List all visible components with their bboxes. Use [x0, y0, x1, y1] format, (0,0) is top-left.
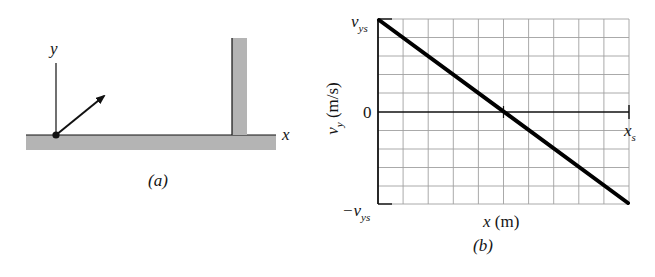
origin-dot — [52, 131, 59, 138]
y-tick-zero-label: 0 — [363, 104, 372, 121]
floor — [26, 135, 276, 150]
y-tick-bottom-sub: ys — [361, 211, 370, 223]
x-axis-title-main: x — [483, 212, 491, 231]
velocity-arrow-icon — [56, 96, 104, 135]
y-axis-title-main: v — [323, 127, 342, 135]
x-tick-end-label: xs — [624, 122, 636, 139]
x-axis-title: x (m) — [483, 213, 519, 230]
y-axis-title-unit: (m/s) — [323, 82, 342, 122]
panel-a-caption: (a) — [148, 172, 168, 189]
panel-a-diagram — [26, 38, 276, 150]
y-tick-bottom-label: −vys — [342, 202, 370, 219]
y-tick-bottom-main: −v — [342, 201, 361, 220]
y-tick-top-sub: ys — [359, 22, 368, 34]
panel-b-chart — [378, 19, 629, 204]
wall — [232, 38, 247, 135]
y-tick-top-main: v — [351, 12, 359, 31]
y-axis-title: vy (m/s) — [324, 69, 341, 149]
x-tick-end-main: x — [624, 121, 632, 140]
y-tick-top-label: vys — [351, 13, 368, 30]
panel-a-y-label: y — [50, 40, 58, 57]
panel-a-x-label: x — [282, 126, 290, 143]
x-axis-title-unit: (m) — [491, 212, 520, 231]
x-tick-end-sub: s — [632, 131, 636, 143]
y-axis-title-sub: y — [333, 122, 345, 127]
panel-b-caption: (b) — [473, 237, 493, 254]
